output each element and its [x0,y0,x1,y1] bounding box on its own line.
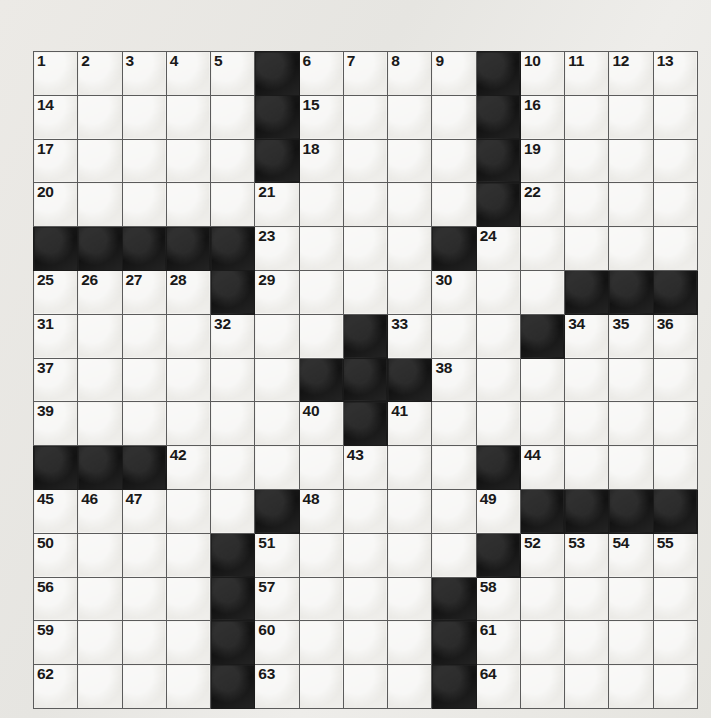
crossword-cell[interactable] [299,533,343,577]
crossword-cell[interactable] [653,621,697,665]
crossword-cell[interactable] [78,358,122,402]
crossword-cell[interactable] [122,95,166,139]
crossword-cell[interactable]: 16 [520,95,564,139]
crossword-cell[interactable]: 55 [653,533,697,577]
crossword-cell[interactable] [166,621,210,665]
crossword-cell[interactable] [122,183,166,227]
crossword-cell[interactable] [343,665,387,709]
crossword-cell[interactable]: 41 [388,402,432,446]
crossword-cell[interactable]: 42 [166,446,210,490]
crossword-cell[interactable] [299,227,343,271]
crossword-cell[interactable] [343,577,387,621]
crossword-cell[interactable]: 38 [432,358,476,402]
crossword-cell[interactable]: 4 [166,52,210,96]
crossword-cell[interactable] [565,665,609,709]
crossword-cell[interactable]: 57 [255,577,299,621]
crossword-cell[interactable]: 9 [432,52,476,96]
crossword-cell[interactable] [432,139,476,183]
crossword-cell[interactable] [122,314,166,358]
crossword-cell[interactable]: 13 [653,52,697,96]
crossword-cell[interactable] [653,227,697,271]
crossword-cell[interactable] [565,183,609,227]
crossword-cell[interactable] [565,446,609,490]
crossword-cell[interactable] [343,270,387,314]
crossword-cell[interactable] [299,577,343,621]
crossword-cell[interactable]: 44 [520,446,564,490]
crossword-cell[interactable] [166,489,210,533]
crossword-cell[interactable] [388,446,432,490]
crossword-cell[interactable]: 23 [255,227,299,271]
crossword-cell[interactable]: 36 [653,314,697,358]
crossword-cell[interactable] [299,270,343,314]
crossword-cell[interactable] [211,139,255,183]
crossword-cell[interactable] [122,533,166,577]
crossword-cell[interactable] [166,183,210,227]
crossword-cell[interactable] [476,314,520,358]
crossword-cell[interactable]: 46 [78,489,122,533]
crossword-cell[interactable] [211,402,255,446]
crossword-cell[interactable] [343,183,387,227]
crossword-cell[interactable] [565,621,609,665]
crossword-cell[interactable]: 40 [299,402,343,446]
crossword-cell[interactable]: 29 [255,270,299,314]
crossword-cell[interactable] [609,183,653,227]
crossword-cell[interactable]: 28 [166,270,210,314]
crossword-cell[interactable] [78,314,122,358]
crossword-cell[interactable] [166,533,210,577]
crossword-cell[interactable]: 52 [520,533,564,577]
crossword-cell[interactable]: 33 [388,314,432,358]
crossword-cell[interactable] [432,183,476,227]
crossword-cell[interactable]: 5 [211,52,255,96]
crossword-cell[interactable] [78,577,122,621]
crossword-cell[interactable] [388,270,432,314]
crossword-cell[interactable] [653,402,697,446]
crossword-cell[interactable] [520,227,564,271]
crossword-cell[interactable] [520,358,564,402]
crossword-cell[interactable] [432,314,476,358]
crossword-cell[interactable]: 61 [476,621,520,665]
crossword-cell[interactable] [166,314,210,358]
crossword-cell[interactable] [653,665,697,709]
crossword-cell[interactable] [565,402,609,446]
crossword-cell[interactable] [255,314,299,358]
crossword-cell[interactable]: 17 [34,139,78,183]
crossword-cell[interactable] [299,314,343,358]
crossword-cell[interactable] [211,183,255,227]
crossword-cell[interactable] [432,489,476,533]
crossword-cell[interactable] [520,270,564,314]
crossword-cell[interactable] [255,402,299,446]
crossword-cell[interactable] [653,358,697,402]
crossword-cell[interactable] [211,489,255,533]
crossword-cell[interactable]: 19 [520,139,564,183]
crossword-cell[interactable] [609,402,653,446]
crossword-cell[interactable] [432,402,476,446]
crossword-cell[interactable] [388,665,432,709]
crossword-cell[interactable]: 12 [609,52,653,96]
crossword-cell[interactable]: 7 [343,52,387,96]
crossword-cell[interactable] [343,227,387,271]
crossword-cell[interactable]: 51 [255,533,299,577]
crossword-cell[interactable] [565,95,609,139]
crossword-cell[interactable] [609,358,653,402]
crossword-cell[interactable] [388,227,432,271]
crossword-cell[interactable]: 10 [520,52,564,96]
crossword-cell[interactable] [609,621,653,665]
crossword-cell[interactable]: 37 [34,358,78,402]
crossword-cell[interactable] [653,183,697,227]
crossword-cell[interactable] [653,95,697,139]
crossword-cell[interactable]: 53 [565,533,609,577]
crossword-cell[interactable] [343,139,387,183]
crossword-cell[interactable] [476,270,520,314]
crossword-cell[interactable] [78,402,122,446]
crossword-cell[interactable]: 20 [34,183,78,227]
crossword-cell[interactable]: 50 [34,533,78,577]
crossword-cell[interactable]: 48 [299,489,343,533]
crossword-cell[interactable] [565,577,609,621]
crossword-cell[interactable] [122,402,166,446]
crossword-cell[interactable] [565,139,609,183]
crossword-cell[interactable] [432,533,476,577]
crossword-cell[interactable] [299,446,343,490]
crossword-cell[interactable]: 34 [565,314,609,358]
crossword-cell[interactable] [388,183,432,227]
crossword-cell[interactable]: 31 [34,314,78,358]
